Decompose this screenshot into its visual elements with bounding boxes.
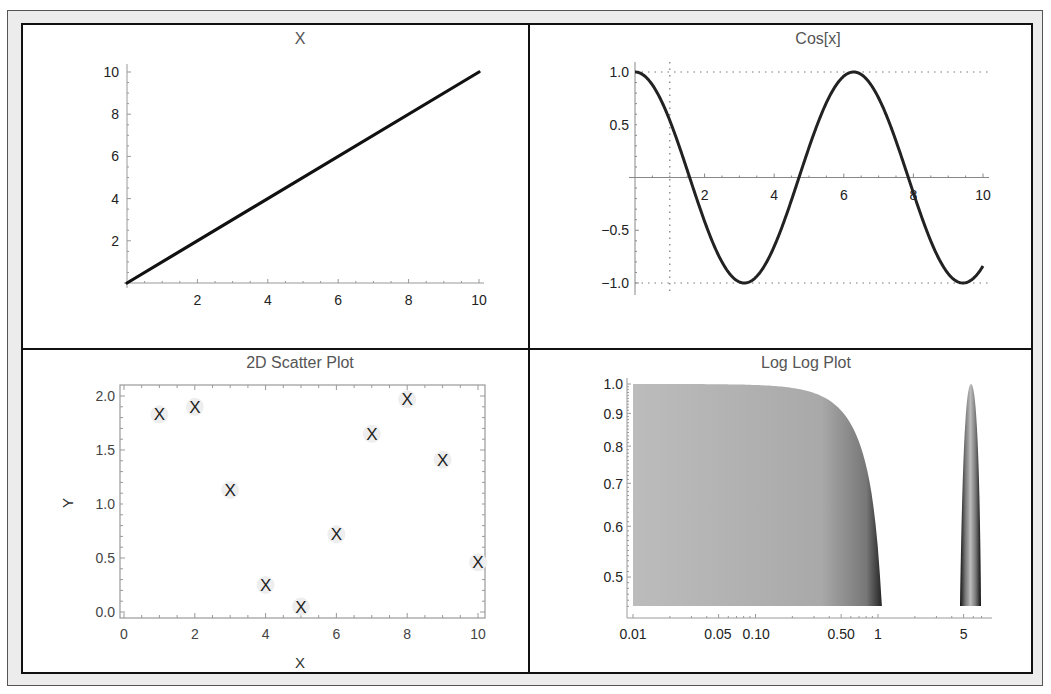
y-tick-label: 0.5 (610, 117, 630, 133)
y-tick-label: 0.5 (604, 569, 624, 585)
y-tick-label: 0.7 (604, 476, 624, 492)
scatter-point: X (260, 576, 271, 595)
y-tick-label: 4 (111, 191, 119, 207)
scatter-point: X (154, 405, 165, 424)
x-tick-label: 0.01 (619, 626, 646, 642)
y-axis-label: Y (59, 498, 76, 508)
y-tick-label: 0.9 (604, 406, 624, 422)
spike-region (960, 384, 981, 606)
x-tick-label: 5 (960, 626, 968, 642)
chart-title: 2D Scatter Plot (246, 354, 354, 371)
y-tick-label: −0.5 (601, 222, 629, 238)
main-region (633, 384, 884, 606)
y-tick-label: 1.0 (604, 376, 624, 392)
y-tick-label: 2 (111, 233, 119, 249)
scatter-point: X (225, 481, 236, 500)
scatter-point: X (472, 553, 483, 572)
chart-scatter: 2D Scatter Plot 02468100.00.51.01.52.0 X… (59, 354, 487, 671)
x-tick-label: 2 (191, 626, 199, 642)
scatter-point: X (402, 390, 413, 409)
scatter-point: X (331, 525, 342, 544)
scatter-point: X (295, 598, 306, 617)
y-tick-label: 1.5 (96, 442, 116, 458)
scatter-series: XXXXXXXXXX (150, 390, 487, 616)
x-tick-label: 0.50 (827, 626, 854, 642)
x-tick-label: 8 (403, 626, 411, 642)
chart-linear: X 246810246810 (103, 30, 487, 308)
y-tick-label: 10 (103, 64, 119, 80)
x-tick-label: 4 (770, 187, 778, 203)
chart-title: Cos[x] (795, 30, 840, 47)
y-tick-label: 0.6 (604, 519, 624, 535)
scatter-point: X (366, 425, 377, 444)
chart-cosine: Cos[x] 2468101.00.5−0.5−1.0 (601, 30, 991, 295)
y-tick-label: −1.0 (601, 275, 629, 291)
x-tick-label: 1 (874, 626, 882, 642)
charts-canvas: X 246810246810 Cos[x] 2468101.00.5−0.5−1… (0, 0, 1051, 694)
x-tick-label: 4 (262, 626, 270, 642)
chart-title: Log Log Plot (761, 354, 851, 371)
plot-frame (120, 385, 485, 618)
scatter-point: X (437, 451, 448, 470)
line-x (127, 72, 479, 283)
chart-loglog: Log Log Plot 0.010.050.100.50151.00.90.8… (604, 354, 992, 642)
x-tick-label: 2 (194, 292, 202, 308)
y-tick-label: 0.8 (604, 439, 624, 455)
x-tick-label: 0.05 (704, 626, 731, 642)
x-tick-label: 2 (701, 187, 709, 203)
y-tick-label: 1.0 (96, 496, 116, 512)
x-axis-label: X (295, 654, 305, 671)
scatter-point: X (189, 398, 200, 417)
x-tick-label: 6 (333, 626, 341, 642)
x-tick-label: 10 (471, 292, 487, 308)
x-tick-label: 6 (840, 187, 848, 203)
y-tick-label: 6 (111, 148, 119, 164)
x-tick-label: 0.10 (743, 626, 770, 642)
y-tick-label: 8 (111, 106, 119, 122)
y-tick-label: 0.0 (96, 604, 116, 620)
area-series (633, 384, 981, 606)
x-tick-label: 8 (405, 292, 413, 308)
x-tick-label: 10 (470, 626, 486, 642)
y-tick-label: 0.5 (96, 550, 116, 566)
y-tick-label: 1.0 (610, 64, 630, 80)
line-series (127, 72, 479, 283)
x-tick-label: 10 (975, 187, 991, 203)
y-tick-label: 2.0 (96, 388, 116, 404)
chart-title: X (295, 30, 306, 47)
x-tick-label: 6 (334, 292, 342, 308)
x-tick-label: 0 (120, 626, 128, 642)
x-tick-label: 4 (264, 292, 272, 308)
